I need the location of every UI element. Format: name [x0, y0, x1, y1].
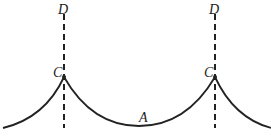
label-c-right: C [204, 65, 214, 80]
label-d-left: D [57, 2, 68, 17]
curve-right-tail [215, 77, 271, 128]
diagram-canvas: D D C C A [0, 0, 271, 140]
label-a: A [138, 110, 148, 125]
cusp-point-left [62, 75, 66, 79]
label-c-left: C [53, 65, 63, 80]
cusp-diagram: D D C C A [0, 0, 271, 140]
label-d-right: D [208, 2, 219, 17]
curve-left-tail [3, 77, 64, 128]
cusp-point-right [213, 75, 217, 79]
